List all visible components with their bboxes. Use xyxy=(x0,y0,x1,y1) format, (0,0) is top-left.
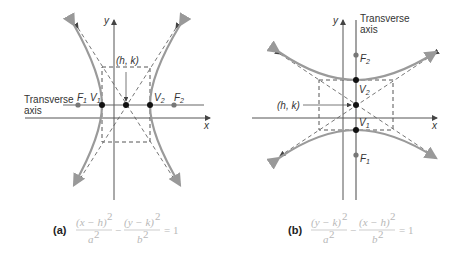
eq-b-rhs: = 1 xyxy=(399,224,413,236)
caption-label-b: (b) xyxy=(288,224,302,236)
eq-b-term2-num: (x − h) xyxy=(359,216,390,229)
eq-b-term2-exp: 2 xyxy=(390,210,396,222)
transverse-axis-label-a-line2: axis xyxy=(24,105,42,116)
x-axis-label-b: x xyxy=(431,120,438,131)
F1-label-b: F1 xyxy=(360,153,370,165)
eq-b-den2-exp: 2 xyxy=(378,228,384,240)
transverse-axis-label-b-line1: Transverse xyxy=(360,13,410,24)
y-axis-label-a: y xyxy=(103,15,110,26)
eq-a-den1-exp: 2 xyxy=(94,228,100,240)
eq-a-term2-exp: 2 xyxy=(155,210,161,222)
F2-label-b: F2 xyxy=(360,53,370,65)
eq-a-term1-exp: 2 xyxy=(107,210,113,222)
V2-label-a: V2 xyxy=(154,92,165,104)
diagram-b: y x (h, k) Transverse axis F2 V2 V1 F1 xyxy=(252,13,438,200)
eq-b-term1-num: (y − k) xyxy=(311,216,341,229)
transverse-axis-label-a-line1: Transverse xyxy=(24,94,74,105)
V2-label-b: V2 xyxy=(359,84,370,96)
vertex-V2-a xyxy=(147,102,153,108)
center-label-b: (h, k) xyxy=(277,100,300,111)
eq-a-term1-num: (x − h) xyxy=(76,216,107,229)
eq-a-term2-num: (y − k) xyxy=(124,216,154,229)
F2-label-a: F2 xyxy=(174,92,184,104)
V1-label-b: V1 xyxy=(359,117,370,129)
diagram-a: y x (h, k) Transverse axis F1 V1 V2 F2 xyxy=(24,15,210,200)
transverse-axis-label-b-line2: axis xyxy=(360,24,378,35)
center-point-a xyxy=(123,102,129,108)
eq-b-den1-exp: 2 xyxy=(329,228,335,240)
x-axis-label-a: x xyxy=(203,120,210,131)
eq-a-den2-exp: 2 xyxy=(143,228,149,240)
focus-F1-a xyxy=(75,102,80,107)
focus-F2-a xyxy=(171,102,176,107)
focus-F1-b xyxy=(353,152,358,157)
caption-b: (b) (y − k) 2 a 2 − (x − h) 2 b 2 = 1 xyxy=(288,210,413,245)
caption-label-a: (a) xyxy=(53,224,67,236)
F1-label-a: F1 xyxy=(77,92,87,104)
y-axis-label-b: y xyxy=(332,15,339,26)
hyperbola-figure: y x (h, k) Transverse axis F1 V1 V2 F2 (… xyxy=(0,0,453,259)
eq-b-term1-exp: 2 xyxy=(342,210,348,222)
eq-b-minus: − xyxy=(350,224,356,236)
vertex-V2-b xyxy=(353,77,359,83)
eq-a-rhs: = 1 xyxy=(164,224,178,236)
center-label-a: (h, k) xyxy=(116,55,139,66)
V1-label-a: V1 xyxy=(90,92,101,104)
center-point-b xyxy=(353,102,359,108)
eq-a-minus: − xyxy=(115,224,121,236)
caption-a: (a) (x − h) 2 a 2 − (y − k) 2 b 2 = 1 xyxy=(53,210,178,245)
focus-F2-b xyxy=(353,52,358,57)
